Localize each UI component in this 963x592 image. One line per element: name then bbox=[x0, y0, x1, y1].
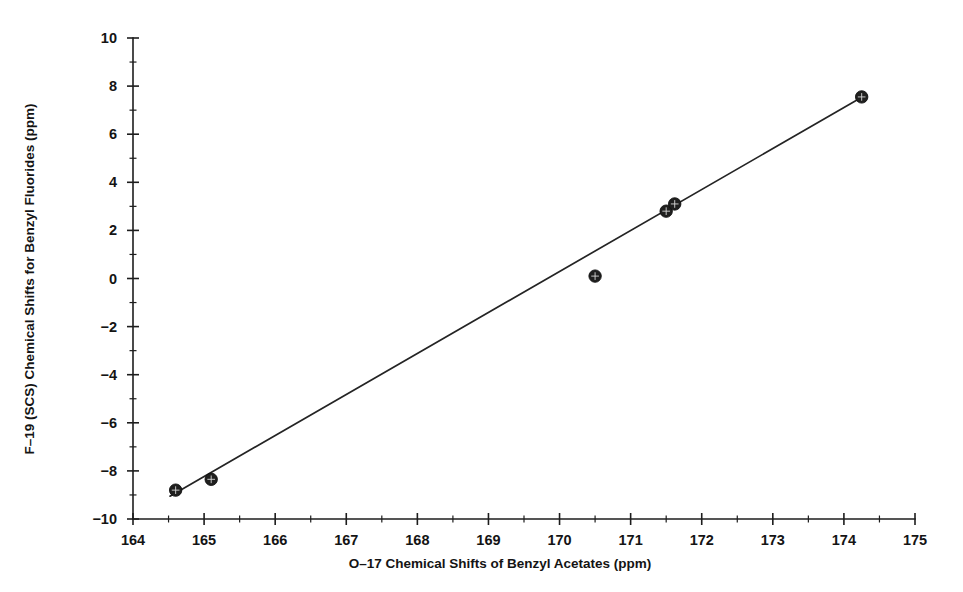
x-tick-label: 175 bbox=[903, 532, 927, 548]
x-tick-label: 171 bbox=[619, 532, 643, 548]
x-axis-title: O–17 Chemical Shifts of Benzyl Acetates … bbox=[349, 556, 652, 571]
x-tick-label: 167 bbox=[334, 532, 358, 548]
x-tick-label: 166 bbox=[263, 532, 287, 548]
data-point bbox=[855, 91, 867, 103]
x-tick-label: 174 bbox=[832, 532, 856, 548]
x-tick-label: 172 bbox=[690, 532, 714, 548]
y-tick-label: −4 bbox=[100, 367, 117, 383]
x-tick-label: 165 bbox=[192, 532, 216, 548]
scatter-plot: −10−8−6−4−20246810 164165166167168169170… bbox=[0, 0, 963, 592]
plot-axes bbox=[133, 38, 915, 519]
data-point bbox=[205, 473, 217, 485]
x-tick-label: 164 bbox=[121, 532, 145, 548]
chart-figure: −10−8−6−4−20246810 164165166167168169170… bbox=[0, 0, 963, 592]
x-tick-label: 173 bbox=[761, 532, 785, 548]
y-tick-label: 6 bbox=[109, 126, 117, 142]
y-tick-label: −8 bbox=[100, 463, 117, 479]
x-axis-tick-labels: 164165166167168169170171172173174175 bbox=[121, 532, 927, 548]
y-tick-label: 10 bbox=[101, 30, 117, 46]
y-tick-label: 4 bbox=[109, 174, 117, 190]
data-point bbox=[589, 270, 601, 282]
y-tick-label: 0 bbox=[109, 271, 117, 287]
x-tick-label: 170 bbox=[547, 532, 571, 548]
fit-line bbox=[170, 95, 865, 496]
x-tick-label: 168 bbox=[405, 532, 429, 548]
y-tick-label: 8 bbox=[109, 78, 117, 94]
data-point bbox=[169, 484, 181, 496]
y-tick-label: −10 bbox=[92, 511, 117, 527]
y-tick-label: −6 bbox=[100, 415, 117, 431]
y-tick-label: 2 bbox=[109, 222, 117, 238]
x-tick-label: 169 bbox=[476, 532, 500, 548]
y-axis-ticks bbox=[127, 38, 139, 519]
regression-line bbox=[170, 95, 865, 496]
y-axis-tick-labels: −10−8−6−4−20246810 bbox=[92, 30, 117, 527]
y-tick-label: −2 bbox=[100, 319, 117, 335]
data-point bbox=[669, 198, 681, 210]
y-axis-title: F–19 (SCS) Chemical Shifts for Benzyl Fl… bbox=[22, 103, 37, 454]
